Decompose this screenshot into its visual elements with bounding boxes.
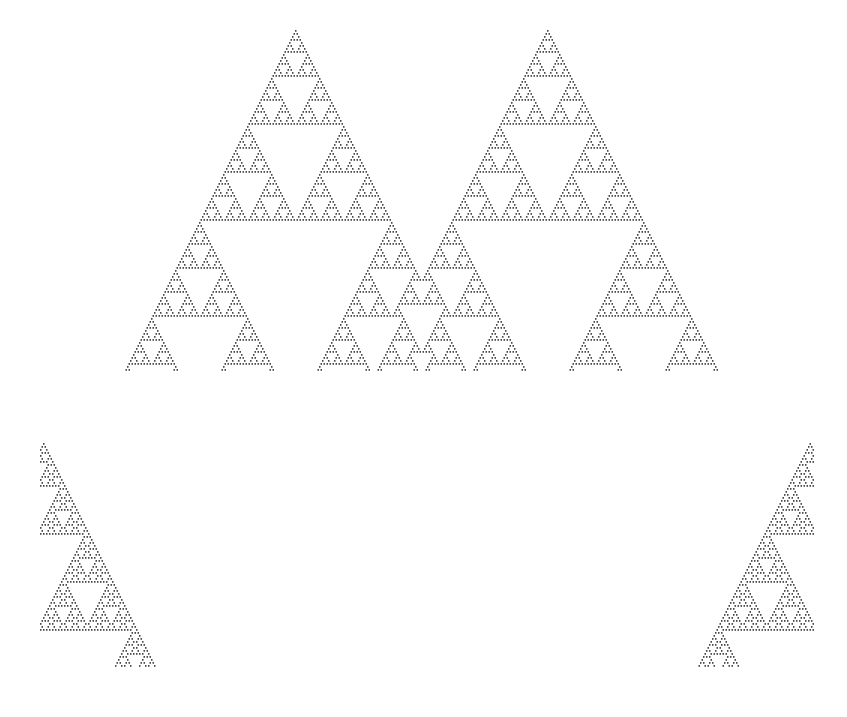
upper-automaton-canvas bbox=[40, 30, 814, 372]
upper-automaton-block bbox=[40, 30, 814, 372]
lower-automaton-canvas bbox=[40, 443, 814, 668]
pattern-page bbox=[0, 0, 847, 717]
lower-automaton-block bbox=[40, 443, 814, 668]
